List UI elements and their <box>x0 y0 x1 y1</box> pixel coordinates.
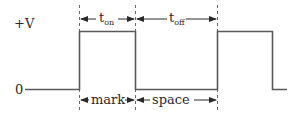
t-on-annotation: ton <box>81 10 134 27</box>
t-on-label: ton <box>99 10 114 27</box>
high-voltage-label: +V <box>14 16 35 31</box>
mark-label: mark <box>91 92 125 107</box>
mark-annotation: mark <box>81 92 134 107</box>
space-annotation: space <box>137 92 216 107</box>
t-off-annotation: toff <box>137 10 216 27</box>
space-label: space <box>152 92 190 107</box>
square-waveform <box>25 32 287 90</box>
t-off-label: toff <box>169 10 186 27</box>
square-wave-diagram: +V 0 ton toff mark space <box>0 0 302 114</box>
zero-voltage-label: 0 <box>15 82 23 97</box>
